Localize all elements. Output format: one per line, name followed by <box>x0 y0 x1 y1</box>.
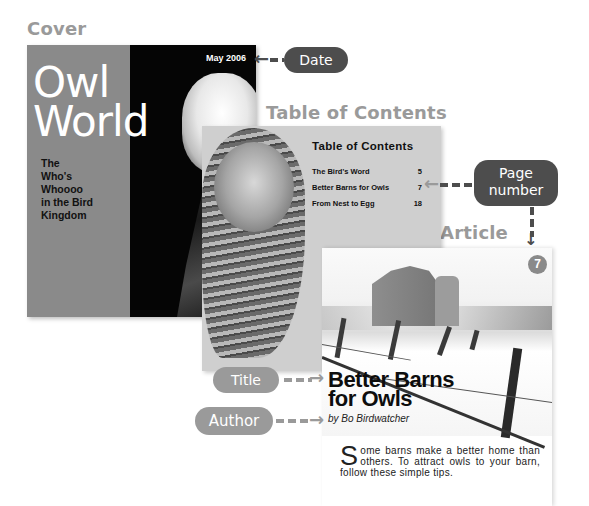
date-connector-line <box>270 58 284 62</box>
fence-post <box>437 326 452 356</box>
page-number-callout-line2: number <box>474 182 558 199</box>
cover-subtitle-line: Kingdom <box>41 209 93 222</box>
title-connector-line <box>284 378 312 382</box>
article-author: by Bo Birdwatcher <box>328 413 409 424</box>
toc-entry: The Bird's Word 5 <box>312 167 422 176</box>
arrow-left-icon: ← <box>254 50 269 68</box>
toc-entry-title: The Bird's Word <box>312 167 369 176</box>
article-title: Better Barns for Owls <box>328 370 454 408</box>
silo <box>435 276 459 326</box>
toc-entry-title: Better Barns for Owls <box>312 183 389 192</box>
page-number-callout-line1: Page <box>474 165 558 182</box>
toc-entry-page: 5 <box>418 167 422 176</box>
page-number-connector-line <box>440 183 474 187</box>
arrow-down-icon: ↓ <box>524 232 537 248</box>
owl-face <box>214 142 294 232</box>
cover-title: Owl World <box>33 63 148 141</box>
author-callout: Author <box>195 407 273 435</box>
barred-owl-image <box>202 128 305 358</box>
cover-subtitle: The Who's Whoooo in the Bird Kingdom <box>41 157 93 222</box>
toc-label: Table of Contents <box>266 102 447 123</box>
cover-title-line2: World <box>33 102 148 141</box>
toc-entry: Better Barns for Owls 7 <box>312 183 422 192</box>
cover-date: May 2006 <box>206 53 246 63</box>
arrow-left-icon: ← <box>424 175 439 193</box>
cover-subtitle-line: Whoooo <box>41 183 93 196</box>
toc-entry-page: 18 <box>414 199 422 208</box>
author-connector-line <box>276 419 310 423</box>
cover-subtitle-line: in the Bird <box>41 196 93 209</box>
fence-post <box>469 330 479 351</box>
toc-entry: From Nest to Egg 18 <box>312 199 422 208</box>
arrow-right-icon: → <box>309 369 324 387</box>
page-number-badge: 7 <box>528 255 547 274</box>
arrow-right-icon: → <box>309 411 324 429</box>
cover-subtitle-line: Who's <box>41 170 93 183</box>
toc-heading: Table of Contents <box>312 140 413 152</box>
article-page: 7 Better Barns for Owls by Bo Birdwatche… <box>322 248 552 506</box>
toc-entry-page: 7 <box>418 183 422 192</box>
article-body-text: ome barns make a better home than others… <box>340 445 540 478</box>
fence-post <box>501 348 522 438</box>
date-callout: Date <box>284 47 348 73</box>
toc-entry-title: From Nest to Egg <box>312 199 375 208</box>
cover-label: Cover <box>27 18 86 39</box>
cover-subtitle-line: The <box>41 157 93 170</box>
drop-cap: S <box>340 446 358 466</box>
page-number-callout: Page number <box>474 160 558 206</box>
article-label: Article <box>440 222 508 243</box>
article-body: Some barns make a better home than other… <box>340 445 540 478</box>
title-callout: Title <box>213 367 279 393</box>
